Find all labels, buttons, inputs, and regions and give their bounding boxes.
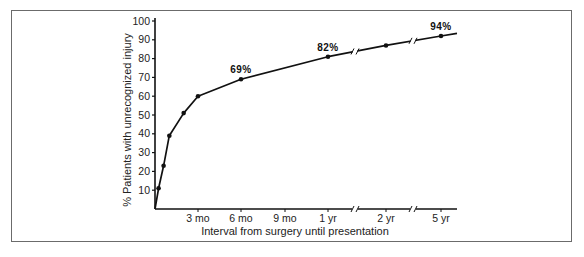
x-axis: 3 mo6 mo9 mo1 yr2 yr5 yr bbox=[155, 206, 457, 224]
data-point bbox=[161, 163, 166, 168]
y-tick-label: 40 bbox=[138, 127, 150, 139]
data-point bbox=[196, 94, 201, 99]
x-tick-label: 3 mo bbox=[186, 212, 210, 224]
data-point bbox=[439, 34, 444, 39]
data-label: 82% bbox=[317, 42, 339, 53]
x-tick-label: 5 yr bbox=[432, 212, 450, 224]
y-tick-label: 60 bbox=[138, 90, 150, 102]
y-tick-label: 50 bbox=[138, 109, 150, 121]
y-axis: 102030405060708090100 bbox=[132, 15, 155, 210]
annotations: 69%82%94% bbox=[230, 21, 452, 75]
x-tick-label: 1 yr bbox=[319, 212, 337, 224]
data-label: 69% bbox=[230, 64, 252, 75]
y-tick-label: 80 bbox=[138, 52, 150, 64]
y-tick-label: 10 bbox=[138, 184, 150, 196]
data-point bbox=[181, 111, 186, 116]
data-point bbox=[239, 77, 244, 82]
line-break-gap bbox=[353, 47, 358, 55]
y-tick-label: 90 bbox=[138, 33, 150, 45]
y-tick-label: 100 bbox=[132, 15, 150, 27]
y-tick-label: 20 bbox=[138, 165, 150, 177]
x-tick-label: 6 mo bbox=[229, 212, 253, 224]
line-chart: 102030405060708090100 3 mo6 mo9 mo1 yr2 … bbox=[0, 0, 584, 257]
data-point bbox=[167, 133, 172, 138]
data-point bbox=[384, 43, 389, 48]
x-tick-label: 2 yr bbox=[377, 212, 395, 224]
line-break-gap bbox=[411, 37, 416, 45]
x-tick-label: 9 mo bbox=[273, 212, 297, 224]
x-axis-title: Interval from surgery until presentation bbox=[201, 225, 389, 237]
data-point bbox=[156, 186, 161, 191]
data-point bbox=[326, 54, 331, 59]
y-tick-label: 70 bbox=[138, 71, 150, 83]
series bbox=[155, 33, 457, 209]
y-tick-label: 30 bbox=[138, 146, 150, 158]
y-axis-title: % Patients with unrecognized injury bbox=[121, 33, 133, 207]
data-label: 94% bbox=[430, 21, 452, 32]
series-line bbox=[155, 33, 457, 209]
